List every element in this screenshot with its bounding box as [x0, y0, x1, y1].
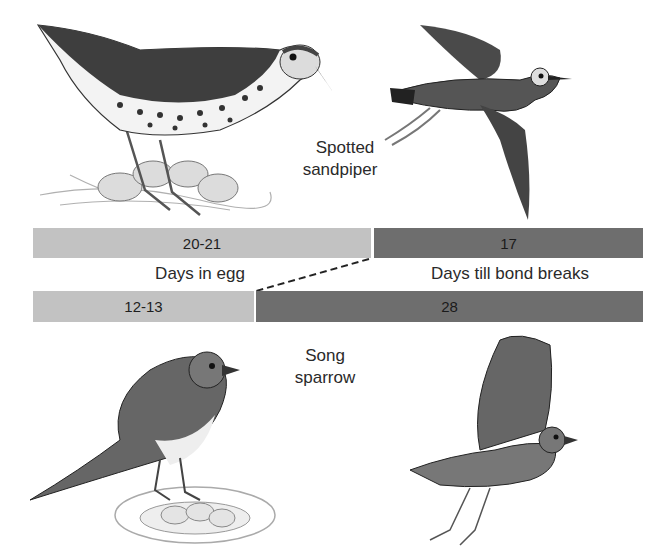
sparrow-bond-bar: 28: [256, 291, 643, 322]
bar-value: 28: [441, 298, 458, 315]
bar-value: 12-13: [124, 298, 162, 315]
sparrow-days-in-egg-bar: 12-13: [33, 291, 254, 322]
dashed-connector-line: [0, 0, 654, 551]
